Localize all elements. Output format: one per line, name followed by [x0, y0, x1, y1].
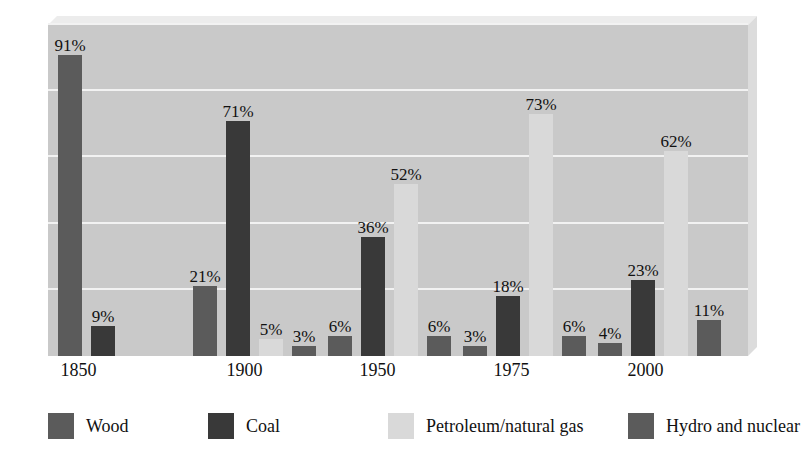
bar: 3%	[463, 346, 487, 356]
bar: 11%	[697, 320, 721, 356]
legend-color-swatch	[388, 413, 414, 439]
bar: 9%	[91, 326, 115, 356]
legend-label: Coal	[246, 416, 280, 437]
bar-value-label: 5%	[260, 321, 283, 338]
x-axis-tick-label: 1850	[61, 360, 97, 381]
bar: 21%	[193, 286, 217, 356]
energy-sources-bar-chart: 91%9%21%71%5%3%6%36%52%6%3%18%73%6%4%23%…	[0, 0, 811, 470]
bar-value-label: 91%	[54, 37, 85, 54]
bar-value-label: 52%	[390, 166, 421, 183]
bar-value-label: 6%	[329, 318, 352, 335]
plot-shell: 91%9%21%71%5%3%6%36%52%6%3%18%73%6%4%23%…	[48, 25, 757, 356]
bar: 52%	[394, 184, 418, 356]
gridline	[48, 155, 748, 157]
bar: 71%	[226, 121, 250, 356]
bar: 6%	[562, 336, 586, 356]
legend-label: Petroleum/natural gas	[426, 416, 583, 437]
legend-item[interactable]: Wood	[48, 413, 129, 439]
legend-color-swatch	[208, 413, 234, 439]
bar: 91%	[58, 55, 82, 356]
legend-label: Hydro and nuclear	[666, 416, 800, 437]
bar-value-label: 62%	[660, 133, 691, 150]
bar-value-label: 11%	[694, 302, 725, 319]
bar-value-label: 6%	[563, 318, 586, 335]
bar-value-label: 36%	[357, 219, 388, 236]
legend-label: Wood	[86, 416, 129, 437]
bar: 36%	[361, 237, 385, 356]
legend-color-swatch	[48, 413, 74, 439]
bar-value-label: 71%	[222, 103, 253, 120]
bar: 6%	[328, 336, 352, 356]
gridline	[48, 89, 748, 91]
bar-value-label: 6%	[428, 318, 451, 335]
bar: 73%	[529, 114, 553, 356]
bar-value-label: 4%	[599, 325, 622, 342]
legend-item[interactable]: Hydro and nuclear	[628, 413, 800, 439]
bar: 3%	[292, 346, 316, 356]
bar: 18%	[496, 296, 520, 356]
bar-value-label: 3%	[293, 328, 316, 345]
bar-value-label: 21%	[189, 268, 220, 285]
legend-item[interactable]: Petroleum/natural gas	[388, 413, 583, 439]
x-axis-tick-label: 1975	[494, 360, 530, 381]
chart-legend: WoodCoalPetroleum/natural gasHydro and n…	[48, 406, 778, 446]
bar-value-label: 23%	[627, 262, 658, 279]
x-axis-tick-label: 2000	[628, 360, 664, 381]
bar-value-label: 73%	[525, 96, 556, 113]
bar: 62%	[664, 151, 688, 356]
x-axis-tick-label: 1900	[227, 360, 263, 381]
plot-bevel-right	[748, 16, 757, 356]
legend-item[interactable]: Coal	[208, 413, 280, 439]
plot-area: 91%9%21%71%5%3%6%36%52%6%3%18%73%6%4%23%…	[48, 25, 748, 356]
legend-color-swatch	[628, 413, 654, 439]
bar: 6%	[427, 336, 451, 356]
bar-value-label: 9%	[92, 308, 115, 325]
x-axis-tick-label: 1950	[360, 360, 396, 381]
x-axis-tick-labels: 18501900195019752000	[48, 360, 757, 386]
bar-value-label: 3%	[464, 328, 487, 345]
bar: 5%	[259, 339, 283, 356]
bar-value-label: 18%	[492, 278, 523, 295]
gridline	[48, 23, 748, 25]
bar: 4%	[598, 343, 622, 356]
bar: 23%	[631, 280, 655, 356]
